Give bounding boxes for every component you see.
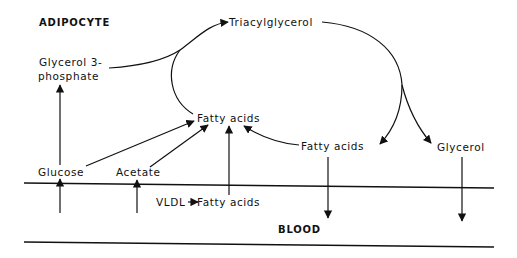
adipocyte-metabolism-diagram: ADIPOCYTE Triacylglycerol Glycerol 3- ph… — [0, 0, 517, 258]
blood-boundary-line — [24, 242, 494, 247]
arc-tag-lipolysis — [322, 22, 402, 85]
node-fatty-acids-right: Fatty acids — [301, 140, 364, 152]
node-vldl: VLDL — [156, 196, 185, 208]
arrow-glucose-to-fatty-acids — [86, 121, 194, 166]
compartment-label-blood: BLOOD — [278, 224, 321, 235]
node-glycerol-3-phosphate-line1: Glycerol 3- — [39, 56, 102, 68]
node-glucose: Glucose — [38, 166, 84, 178]
node-vldl-fatty-acids: Fatty acids — [197, 196, 260, 208]
arrow-tag-to-glycerol — [402, 85, 431, 143]
node-triacylglycerol: Triacylglycerol — [228, 16, 313, 28]
node-glycerol-3-phosphate-line2: phosphate — [38, 70, 99, 82]
arrow-tag-to-fatty-acids — [380, 85, 402, 144]
arrow-g3p-to-tag — [109, 22, 228, 68]
arc-fatty-acids-to-tag — [171, 50, 193, 114]
node-acetate: Acetate — [116, 166, 161, 178]
node-fatty-acids-center: Fatty acids — [197, 112, 260, 124]
compartment-label-adipocyte: ADIPOCYTE — [39, 17, 110, 28]
arrow-acetate-to-fatty-acids — [150, 125, 208, 167]
arrow-fatty-acids-reesterify — [244, 126, 299, 145]
cell-membrane-line — [24, 183, 494, 188]
node-glycerol: Glycerol — [437, 141, 485, 153]
